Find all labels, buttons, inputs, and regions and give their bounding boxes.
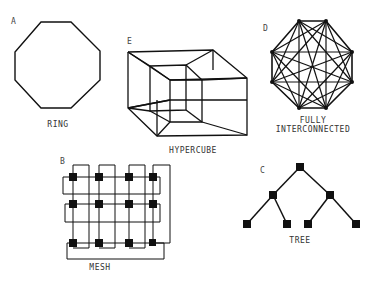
mesh-label: MESH xyxy=(89,263,110,272)
topology-drawings xyxy=(0,0,373,281)
ring-label: RING xyxy=(47,120,68,129)
network-topologies-figure: A RING E HYPERCUBE D FULLY INTERCONNECTE… xyxy=(0,0,373,281)
fully-interconnected-label-line1: FULLY xyxy=(300,116,327,125)
mesh-letter: B xyxy=(60,157,65,166)
ring-topology xyxy=(15,22,100,108)
hypercube-letter: E xyxy=(127,37,132,46)
fully-interconnected-letter: D xyxy=(263,24,268,33)
hypercube-topology xyxy=(128,50,247,136)
ring-letter: A xyxy=(11,17,16,26)
fully-interconnected-label-line2: INTERCONNECTED xyxy=(276,125,350,134)
tree-letter: C xyxy=(260,166,265,175)
tree-label: TREE xyxy=(289,236,310,245)
mesh-topology xyxy=(63,165,170,259)
hypercube-label: HYPERCUBE xyxy=(169,146,217,155)
fully-interconnected-topology xyxy=(270,19,354,110)
